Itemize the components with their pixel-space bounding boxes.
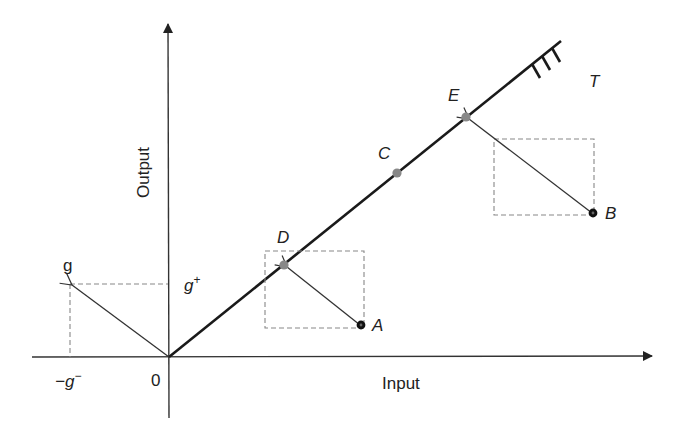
point-a-center — [360, 324, 363, 327]
g-minus-sup: − — [74, 369, 81, 383]
point-d — [279, 260, 288, 269]
point-label-d: D — [277, 228, 289, 247]
constraint-label-t: T — [589, 72, 601, 91]
point-label-a: A — [371, 316, 383, 335]
point-label-c: C — [378, 144, 391, 163]
constraint-line — [169, 41, 561, 357]
arrow-a-to-d — [287, 267, 360, 325]
diagram-canvas: A B C D E T g g+ −g− 0 Input Output — [0, 0, 676, 443]
g-plus-sup: + — [193, 273, 200, 287]
g-vector — [72, 285, 169, 357]
point-b-center — [592, 212, 595, 215]
origin-label: 0 — [151, 371, 160, 390]
g-minus-base: −g — [55, 372, 75, 391]
point-label-e: E — [448, 86, 460, 105]
point-label-b: B — [605, 204, 616, 223]
y-axis-label: Output — [134, 147, 153, 198]
y-axis — [168, 24, 169, 418]
arrow-b-to-e — [469, 119, 592, 213]
x-axis — [32, 356, 652, 357]
g-plus-label: g+ — [184, 273, 200, 295]
point-c — [392, 168, 401, 177]
point-e — [461, 112, 470, 121]
g-minus-label: −g− — [55, 369, 81, 391]
x-axis-label: Input — [382, 374, 420, 393]
g-label: g — [63, 256, 72, 275]
